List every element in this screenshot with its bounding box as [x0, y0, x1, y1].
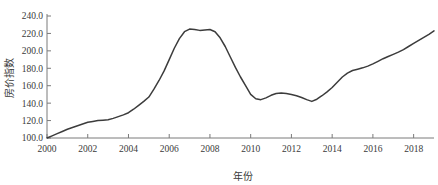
- x-tick-label: 2016: [363, 144, 382, 154]
- y-tick-label: 200.0: [22, 46, 44, 56]
- house-price-index-chart: 100.0120.0140.0160.0180.0200.0220.0240.0…: [0, 0, 438, 185]
- x-tick-label: 2012: [282, 144, 301, 154]
- y-tick-label: 180.0: [22, 64, 44, 74]
- y-tick-label: 240.0: [22, 11, 44, 21]
- x-tick-label: 2010: [241, 144, 260, 154]
- x-tick-label: 2006: [160, 144, 179, 154]
- y-tick-label: 160.0: [22, 81, 44, 91]
- x-tick-label: 2008: [200, 144, 219, 154]
- chart-plot-area: 100.0120.0140.0160.0180.0200.0220.0240.0…: [0, 0, 438, 185]
- y-axis-title: 房价指数: [3, 58, 15, 98]
- x-tick-label: 2004: [119, 144, 138, 154]
- x-axis-title: 年份: [233, 170, 253, 182]
- series-line: [47, 29, 434, 138]
- x-tick-label: 2018: [404, 144, 423, 154]
- y-tick-label: 100.0: [22, 133, 44, 143]
- x-tick-label: 2000: [38, 144, 57, 154]
- x-tick-label: 2014: [323, 144, 342, 154]
- y-axis: 100.0120.0140.0160.0180.0200.0220.0240.0: [22, 11, 51, 143]
- y-tick-label: 120.0: [22, 116, 44, 126]
- data-series-group: [47, 29, 434, 138]
- x-tick-label: 2002: [78, 144, 97, 154]
- y-tick-label: 220.0: [22, 29, 44, 39]
- y-tick-label: 140.0: [22, 99, 44, 109]
- x-axis: 2000200220042006200820102012201420162018: [38, 134, 435, 154]
